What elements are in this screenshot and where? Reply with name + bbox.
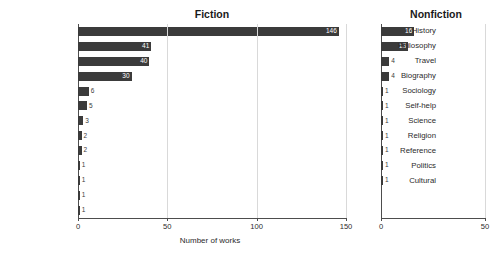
bar-value-label: 1 <box>385 177 389 184</box>
x-tick-label: 100 <box>250 222 263 231</box>
y-category-label: Sociology <box>402 87 436 95</box>
y-category-label: Travel <box>415 57 436 65</box>
bar <box>78 146 82 155</box>
plot-area-fiction: 146414030653221111 <box>78 24 346 218</box>
bar <box>78 87 89 96</box>
bar-value-label: 1 <box>82 162 86 169</box>
bar-row: 1 <box>78 173 346 188</box>
x-tick-label: 50 <box>163 222 171 231</box>
bar-value-label: 40 <box>140 58 149 65</box>
bar <box>78 101 87 110</box>
bar-row: 1 <box>78 203 346 218</box>
bar-value-label: 146 <box>326 28 339 35</box>
bar-value-label: 1 <box>385 103 389 110</box>
bar <box>78 116 83 125</box>
y-category-label: Cultural <box>409 177 436 185</box>
bar <box>381 176 383 185</box>
bar-value-label: 1 <box>385 88 389 95</box>
x-tick-label: 0 <box>379 222 383 231</box>
bar-value-label: 4 <box>391 58 395 65</box>
bar: 16 <box>381 27 414 36</box>
chart-figure: Fiction 146414030653221111 ClassicsShort… <box>0 0 494 262</box>
bar-value-label: 4 <box>391 73 395 80</box>
bar-value-label: 1 <box>385 118 389 125</box>
x-tick-mark <box>346 218 347 221</box>
bar-value-label: 1 <box>82 207 86 214</box>
bar-row: 40 <box>78 54 346 69</box>
bar <box>78 176 80 185</box>
y-category-label: Reference <box>400 147 436 155</box>
y-category-label: Religion <box>408 132 436 140</box>
bar-row: 6 <box>78 84 346 99</box>
y-category-label: Biography <box>401 72 436 80</box>
bar-value-label: 5 <box>89 103 93 110</box>
x-axis-line-nonfiction <box>381 218 485 219</box>
bar-value-label: 1 <box>385 162 389 169</box>
bar-value-label: 1 <box>82 177 86 184</box>
bar <box>381 146 383 155</box>
panel-title-nonfiction: Nonfiction <box>380 8 492 20</box>
bar-row: 30 <box>78 69 346 84</box>
x-tick-mark <box>381 218 382 221</box>
bar: 30 <box>78 72 132 81</box>
bar-value-label: 30 <box>122 73 131 80</box>
y-category-label: History <box>412 28 436 36</box>
bar-row: 1 <box>78 158 346 173</box>
bar: 40 <box>78 57 149 66</box>
bar-row: 2 <box>78 143 346 158</box>
bar <box>381 57 389 66</box>
bar-row: 5 <box>78 99 346 114</box>
x-tick-mark <box>485 218 486 221</box>
x-tick-mark <box>78 218 79 221</box>
y-category-label: Philosophy <box>398 42 436 50</box>
bar-row: 1 <box>78 188 346 203</box>
x-tick-label: 150 <box>340 222 353 231</box>
bar-rows-fiction: 146414030653221111 <box>78 24 346 218</box>
x-tick-label: 50 <box>481 222 489 231</box>
bar-value-label: 6 <box>91 88 95 95</box>
y-category-label: Science <box>408 117 436 125</box>
x-axis-line-fiction <box>78 218 346 219</box>
bar-value-label: 41 <box>142 43 151 50</box>
bar <box>78 191 80 200</box>
gridline <box>346 24 347 218</box>
bar <box>381 101 383 110</box>
bar <box>381 87 383 96</box>
bar-row: 2 <box>78 128 346 143</box>
gridline <box>257 24 258 218</box>
bar-value-label: 3 <box>85 118 89 125</box>
bar-value-label: 2 <box>84 133 88 140</box>
gridline <box>485 24 486 218</box>
bar <box>78 206 80 215</box>
bar-row: 3 <box>78 113 346 128</box>
x-tick-mark <box>257 218 258 221</box>
bar <box>381 161 383 170</box>
bar-value-label: 1 <box>385 147 389 154</box>
panel-title-fiction: Fiction <box>78 8 346 20</box>
bar <box>78 131 82 140</box>
bar: 41 <box>78 42 151 51</box>
bar-row: 41 <box>78 39 346 54</box>
panel-fiction: Fiction 146414030653221111 ClassicsShort… <box>0 0 352 262</box>
bar-row: 146 <box>78 24 346 39</box>
bar-value-label: 1 <box>385 133 389 140</box>
y-category-label: Self-help <box>405 102 436 110</box>
bar: 146 <box>78 27 339 36</box>
bar-value-label: 2 <box>84 147 88 154</box>
bar <box>381 72 389 81</box>
bar <box>381 116 383 125</box>
y-category-label: Politics <box>411 162 436 170</box>
bar <box>381 131 383 140</box>
x-tick-label: 0 <box>76 222 80 231</box>
bar-value-label: 1 <box>82 192 86 199</box>
gridline <box>167 24 168 218</box>
bar <box>78 161 80 170</box>
x-axis-label: Number of works <box>0 236 420 245</box>
x-tick-mark <box>167 218 168 221</box>
